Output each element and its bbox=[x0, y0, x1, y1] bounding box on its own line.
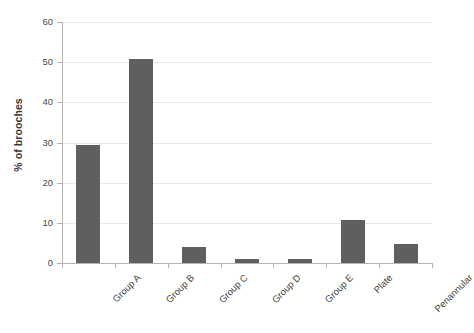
bar-slot bbox=[168, 22, 221, 263]
y-tick-label-wrap: 40 bbox=[20, 97, 53, 107]
y-tick-label-wrap: 20 bbox=[20, 178, 53, 188]
x-axis-category-label: Group C bbox=[217, 272, 250, 305]
x-axis-category-label: Group E bbox=[322, 272, 355, 305]
bar-slot bbox=[273, 22, 326, 263]
bar[interactable] bbox=[182, 247, 206, 263]
y-tick-label-wrap: 0 bbox=[20, 258, 53, 268]
bars-layer bbox=[62, 22, 432, 263]
bar[interactable] bbox=[394, 244, 418, 263]
x-tick-mark bbox=[326, 263, 327, 268]
x-tick-mark bbox=[115, 263, 116, 268]
x-tick-mark bbox=[168, 263, 169, 268]
x-tick-mark bbox=[62, 263, 63, 268]
x-axis-category-label: Group A bbox=[111, 272, 143, 304]
bar[interactable] bbox=[341, 220, 365, 263]
bar-slot bbox=[221, 22, 274, 263]
bar[interactable] bbox=[288, 259, 312, 263]
x-tick-mark bbox=[432, 263, 433, 268]
y-axis-title-text: % of brooches bbox=[12, 98, 24, 172]
y-tick-label: 50 bbox=[20, 57, 53, 67]
x-axis-category-label: Group B bbox=[164, 272, 197, 305]
bar[interactable] bbox=[76, 145, 100, 263]
bar[interactable] bbox=[235, 259, 259, 263]
y-tick-label-wrap: 10 bbox=[20, 218, 53, 228]
x-axis-category-label: Group D bbox=[270, 272, 303, 305]
bar-slot bbox=[115, 22, 168, 263]
y-tick-label: 20 bbox=[20, 178, 53, 188]
bar[interactable] bbox=[129, 59, 153, 263]
y-tick-label: 0 bbox=[20, 258, 53, 268]
y-tick-label: 40 bbox=[20, 97, 53, 107]
x-tick-mark bbox=[273, 263, 274, 268]
y-tick-label-wrap: 60 bbox=[20, 17, 53, 27]
x-axis-line bbox=[62, 263, 432, 264]
y-tick-label: 30 bbox=[20, 138, 53, 148]
y-tick-label: 60 bbox=[20, 17, 53, 27]
bar-slot bbox=[326, 22, 379, 263]
x-axis-category-label: Penannular bbox=[432, 272, 474, 314]
x-tick-mark bbox=[221, 263, 222, 268]
x-tick-mark bbox=[379, 263, 380, 268]
y-axis-title: % of brooches bbox=[8, 0, 28, 270]
y-tick-label-wrap: 50 bbox=[20, 57, 53, 67]
y-tick-label-wrap: 30 bbox=[20, 138, 53, 148]
bar-slot bbox=[62, 22, 115, 263]
y-tick-label: 10 bbox=[20, 218, 53, 228]
x-axis-category-label: Plate bbox=[371, 272, 394, 295]
bar-slot bbox=[379, 22, 432, 263]
